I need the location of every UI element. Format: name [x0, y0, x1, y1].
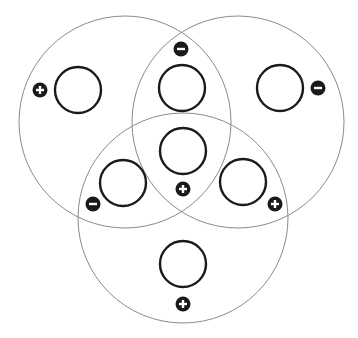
minus-icon: [174, 42, 189, 57]
plus-icon: [33, 83, 48, 98]
minus-icon: [86, 197, 101, 212]
region-slot-b-and-c[interactable]: [220, 159, 266, 205]
region-slot-a-and-b-and-c[interactable]: [160, 128, 206, 174]
region-slot-b-only[interactable]: [257, 65, 303, 111]
venn-diagram: [0, 0, 358, 338]
region-slot-a-and-b[interactable]: [159, 65, 205, 111]
plus-icon: [176, 297, 191, 312]
region-slot-a-only[interactable]: [55, 67, 101, 113]
region-slot-a-and-c[interactable]: [100, 160, 146, 206]
region-slot-c-only[interactable]: [160, 241, 206, 287]
plus-icon: [268, 197, 283, 212]
plus-icon: [176, 182, 191, 197]
venn-canvas: [0, 0, 358, 338]
minus-icon: [311, 81, 326, 96]
